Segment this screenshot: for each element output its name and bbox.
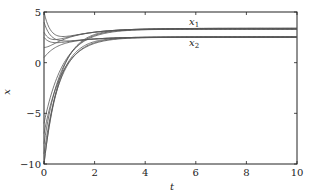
- x2-annotation: x2: [189, 37, 199, 50]
- y-tick-label: −10: [20, 159, 41, 170]
- trajectory-line: [44, 29, 297, 123]
- x-tick-label: 0: [41, 167, 47, 178]
- x-tick-label: 10: [291, 167, 304, 178]
- trajectory-line: [44, 22, 297, 41]
- line-chart: 0246810 −10−505 t x x1 x2: [0, 0, 309, 194]
- y-tick-label: −5: [26, 108, 41, 119]
- x-tick-label: 2: [91, 167, 97, 178]
- trajectory-line: [44, 37, 297, 164]
- trajectory-line: [44, 12, 297, 37]
- x-axis-label: t: [170, 181, 175, 192]
- x-tick-label: 6: [193, 167, 199, 178]
- y-tick-label: 5: [35, 7, 41, 18]
- trajectory-curves: [44, 12, 297, 164]
- plot-frame: [44, 12, 297, 164]
- x-tick-label: 8: [243, 167, 249, 178]
- y-tick-label: 0: [35, 58, 41, 69]
- x1-annotation: x1: [189, 16, 199, 29]
- trajectory-line: [44, 37, 297, 154]
- y-axis-label: x: [1, 89, 12, 95]
- x-tick-label: 4: [142, 167, 148, 178]
- y-axis-ticks: −10−505: [20, 7, 297, 170]
- trajectory-line: [44, 37, 297, 133]
- trajectory-line: [44, 28, 297, 47]
- trajectory-line: [44, 29, 297, 144]
